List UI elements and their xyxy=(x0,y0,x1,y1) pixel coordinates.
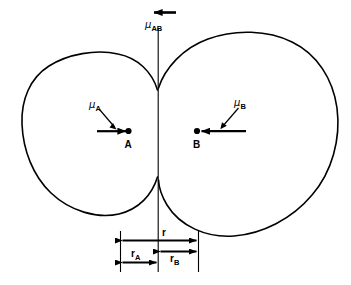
point-b-dot xyxy=(194,128,200,134)
mu-a-symbol: μ xyxy=(88,99,95,110)
point-a-dot xyxy=(125,128,131,134)
label-mu-b: μB xyxy=(233,97,246,111)
mu-b-symbol: μ xyxy=(233,97,240,108)
label-point-b: B xyxy=(193,139,200,150)
mu-ab-symbol: μ xyxy=(144,19,151,30)
rb-subscript: B xyxy=(174,258,180,267)
mu-b-subscript: B xyxy=(240,102,246,111)
label-mu-ab: μAB xyxy=(144,19,163,33)
diagram-canvas: μAB μA μB A B r rA rB xyxy=(0,0,351,285)
mu-ab-subscript: AB xyxy=(151,24,162,33)
sphere-a-outline xyxy=(22,52,158,215)
diagram-svg: μAB μA μB A B r rA rB xyxy=(0,0,351,285)
mu-a-subscript: A xyxy=(95,104,101,113)
mu-b-leader-line xyxy=(223,108,239,127)
label-dist-ra: rA xyxy=(131,248,141,262)
label-dist-rb: rB xyxy=(170,253,180,267)
label-dist-r: r xyxy=(162,227,166,238)
label-mu-a: μA xyxy=(88,99,101,113)
mu-a-leader-arrowhead xyxy=(110,123,117,130)
ra-subscript: A xyxy=(135,253,141,262)
label-point-a: A xyxy=(125,139,132,150)
sphere-b-outline xyxy=(159,32,338,236)
